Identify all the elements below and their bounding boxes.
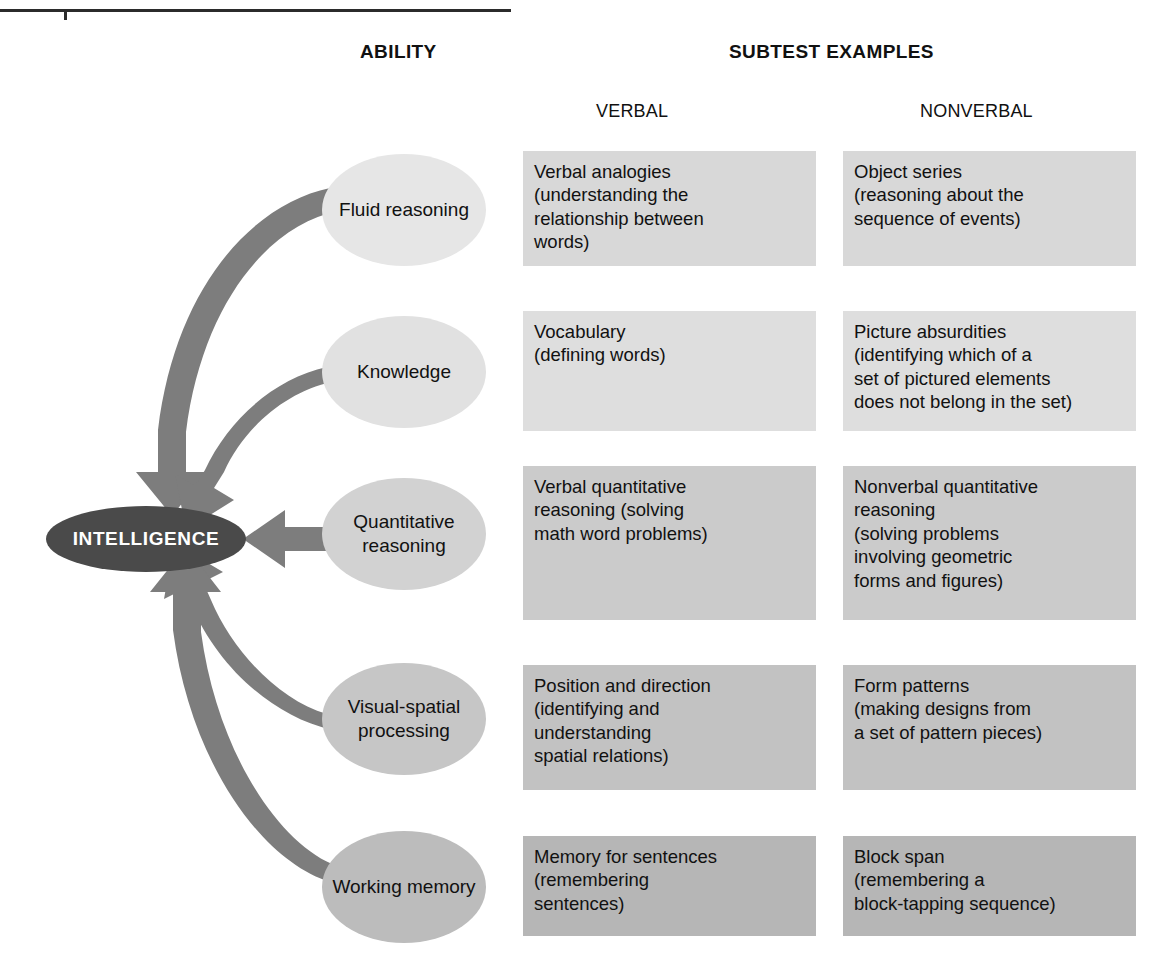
node-intelligence[interactable]: INTELLIGENCE (46, 506, 246, 572)
node-working-memory-label: Working memory (332, 875, 475, 899)
example-box-verbal-knowledge: Vocabulary (defining words) (523, 311, 816, 431)
node-working-memory[interactable]: Working memory (322, 831, 486, 943)
example-box-verbal-quantitative-reasoning: Verbal quantitative reasoning (solving m… (523, 466, 816, 620)
node-knowledge-label: Knowledge (357, 360, 451, 384)
example-box-nonverbal-fluid-reasoning: Object series (reasoning about the seque… (843, 151, 1136, 266)
example-box-verbal-fluid-reasoning: Verbal analogies (understanding the rela… (523, 151, 816, 266)
node-quantitative-reasoning[interactable]: Quantitative reasoning (322, 478, 486, 590)
example-box-nonverbal-knowledge: Picture absurdities (identifying which o… (843, 311, 1136, 431)
node-visual-spatial-processing[interactable]: Visual-spatial processing (322, 663, 486, 775)
arrow-quantitative-reasoning (243, 510, 330, 568)
example-box-verbal-working-memory: Memory for sentences (remembering senten… (523, 836, 816, 936)
example-box-verbal-visual-spatial: Position and direction (identifying and … (523, 665, 816, 790)
example-box-nonverbal-visual-spatial: Form patterns (making designs from a set… (843, 665, 1136, 790)
example-box-nonverbal-quantitative-reasoning: Nonverbal quantitative reasoning (solvin… (843, 466, 1136, 620)
node-fluid-reasoning-label: Fluid reasoning (339, 198, 469, 222)
figure-canvas: ABILITY SUBTEST EXAMPLES VERBAL NONVERBA… (0, 0, 1155, 967)
node-quantitative-reasoning-label: Quantitative reasoning (322, 510, 486, 558)
arrow-fluid-reasoning (136, 188, 338, 516)
node-knowledge[interactable]: Knowledge (322, 316, 486, 428)
node-intelligence-label: INTELLIGENCE (73, 527, 220, 551)
node-visual-spatial-processing-label: Visual-spatial processing (322, 695, 486, 743)
example-box-nonverbal-working-memory: Block span (remembering a block-tapping … (843, 836, 1136, 936)
node-fluid-reasoning[interactable]: Fluid reasoning (322, 154, 486, 266)
arrow-knowledge (175, 367, 332, 530)
